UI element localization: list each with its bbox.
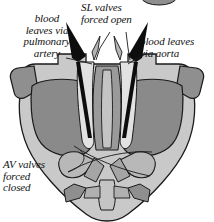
heart-diagram-figure: blood leaves via pulmonary artery SL val… — [0, 0, 214, 222]
label-av-valves-forced-closed: AV valves forced closed — [3, 159, 77, 194]
label-blood-leaves-via-pulmonary-artery: blood leaves via pulmonary artery — [9, 13, 85, 59]
interventricular-septum — [93, 66, 121, 150]
label-sl-valves-forced-open: SL valves forced open — [81, 2, 173, 25]
label-blood-leaves-via-aorta: blood leaves via aorta — [140, 36, 214, 59]
